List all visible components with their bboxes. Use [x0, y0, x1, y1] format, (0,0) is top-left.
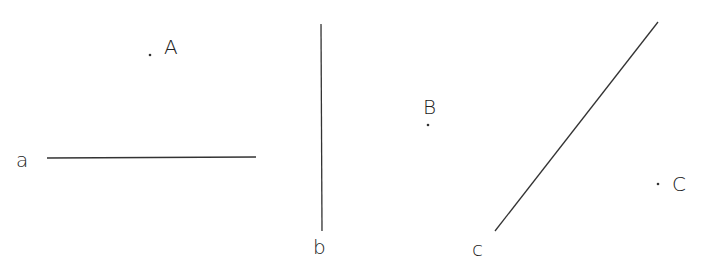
- point-label-a: A: [164, 37, 178, 57]
- line-label-a: a: [16, 150, 28, 170]
- line-label-b: b: [313, 237, 326, 257]
- point-c-dot: [657, 183, 660, 186]
- line-a: [47, 157, 256, 158]
- line-label-c: c: [472, 239, 483, 259]
- point-label-c: C: [672, 174, 686, 194]
- line-c: [495, 22, 658, 231]
- point-a-dot: [149, 54, 152, 57]
- point-label-b: B: [423, 97, 436, 117]
- diagram-canvas: [0, 0, 708, 269]
- point-b-dot: [427, 124, 430, 127]
- line-b: [321, 24, 322, 231]
